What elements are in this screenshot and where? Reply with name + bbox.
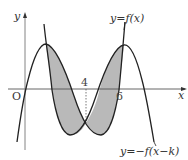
tick-label-4: 4 — [81, 76, 88, 89]
y-axis-label: y — [13, 10, 21, 23]
y-axis-arrow-icon — [23, 12, 27, 18]
origin-label: O — [12, 90, 21, 103]
function-graph: y x O 4 6 y=f(x) y=−f(x−k) — [0, 0, 188, 160]
x-axis-label: x — [178, 89, 185, 102]
curve-f-label: y=f(x) — [109, 12, 144, 25]
tick-label-6: 6 — [116, 90, 123, 103]
curve-neg-f-shift-label: y=−f(x−k) — [119, 145, 179, 158]
